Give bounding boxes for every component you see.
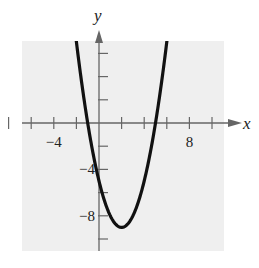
parabola-chart: x y −48−4−8	[0, 0, 259, 268]
y-axis-arrow-icon	[95, 30, 103, 43]
x-tick-label: 8	[186, 134, 194, 150]
y-tick-label: −4	[79, 161, 95, 177]
y-axis-label: y	[92, 6, 102, 25]
y-tick-label: −8	[79, 208, 95, 224]
x-axis-arrow-icon	[228, 119, 242, 127]
x-tick-label: −4	[46, 134, 62, 150]
x-axis-label: x	[242, 114, 251, 133]
